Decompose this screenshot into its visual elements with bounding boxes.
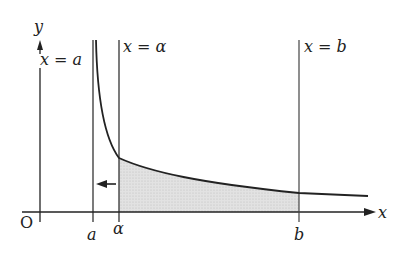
tick-label-a: a [87, 225, 97, 244]
label-x-equals-a: x = a [40, 50, 82, 69]
x-axis-label: x [378, 203, 387, 222]
shaded-area [119, 158, 299, 212]
diagram-canvas: y x O x = a x = α x = b a α b [0, 0, 402, 264]
origin-label: O [20, 213, 33, 232]
tick-label-alpha: α [113, 219, 124, 238]
label-x-equals-alpha: x = α [123, 37, 167, 56]
tick-label-b: b [294, 225, 304, 244]
y-axis-arrow-icon [37, 40, 43, 50]
y-axis-label: y [33, 17, 44, 36]
label-x-equals-b: x = b [304, 37, 347, 56]
x-axis-arrow-icon [364, 208, 376, 216]
left-arrow-icon [96, 180, 107, 188]
